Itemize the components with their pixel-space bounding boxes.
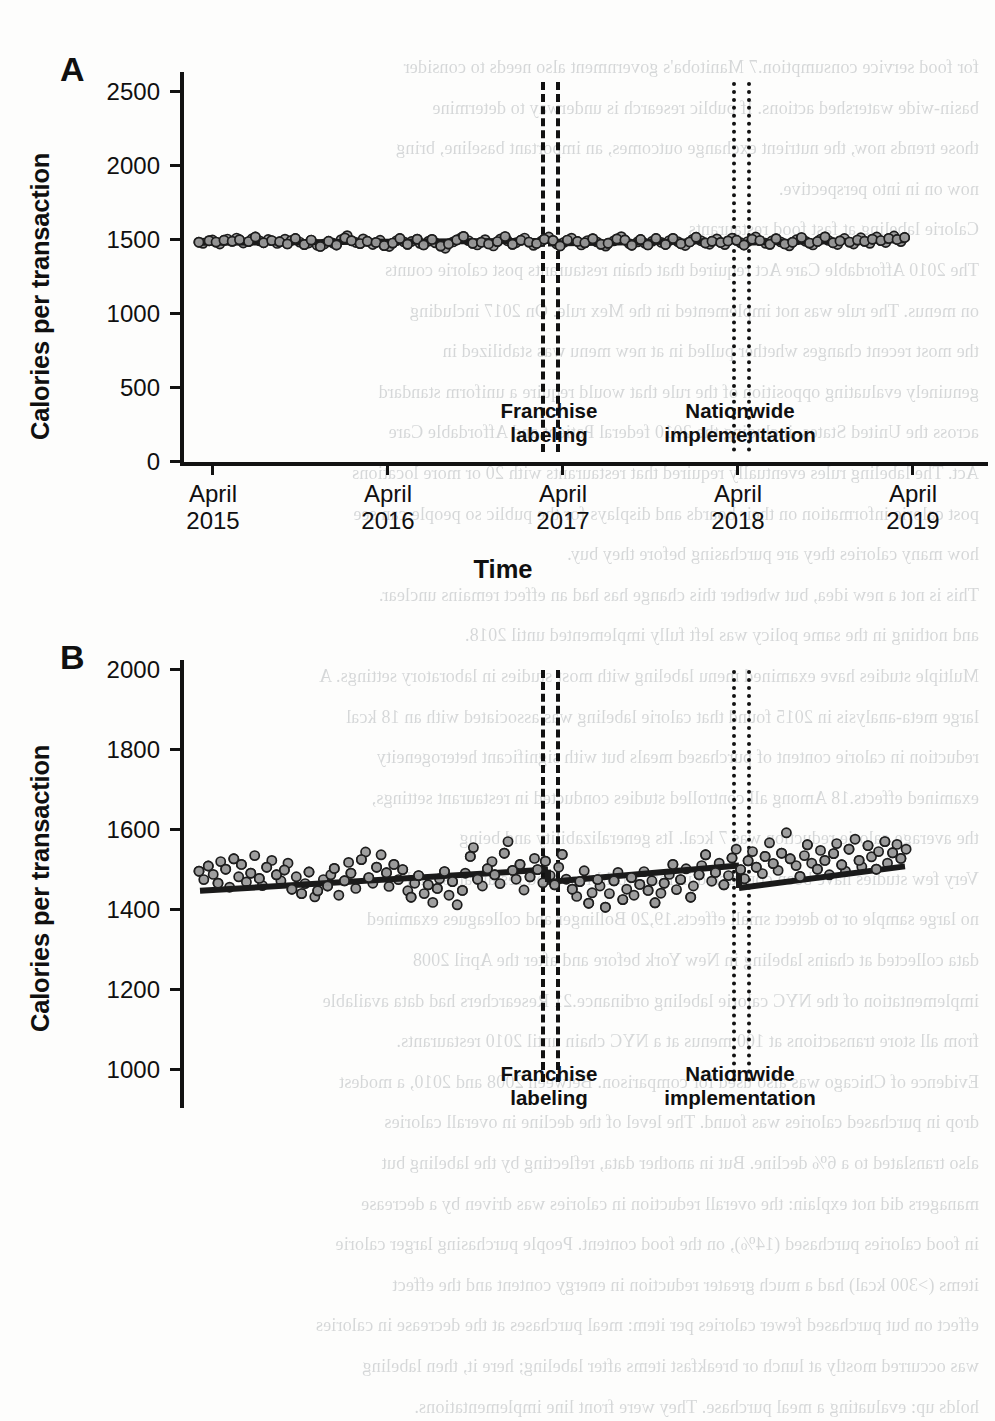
panel-b: B Calories per transaction 1000 1200 140… <box>0 600 995 1108</box>
x-axis-title: Time <box>473 555 532 584</box>
panel-b-data-layer <box>0 600 995 1108</box>
panel-a-data-layer <box>0 0 995 600</box>
panel-a: A Calories per transaction 0 500 1000 15… <box>0 0 995 600</box>
